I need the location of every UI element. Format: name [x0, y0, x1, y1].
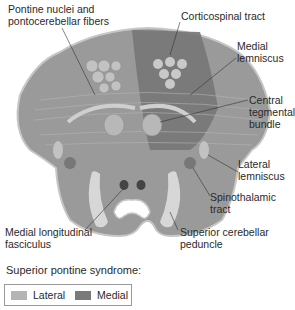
label-pontine-nuclei: Pontine nuclei and pontocerebellar fiber… [8, 3, 109, 27]
medial-swatch [75, 291, 91, 300]
legend: Lateral Medial [4, 284, 132, 306]
spinothalamic-right [184, 157, 196, 169]
mlf-left [120, 180, 129, 190]
spinothalamic-left [64, 157, 76, 169]
pons-cross-section [0, 0, 295, 260]
central-tegmental-left [104, 114, 124, 136]
mlf-right [137, 180, 146, 190]
lateral-lemniscus-left [53, 141, 63, 159]
legend-item-lateral: Lateral [11, 289, 65, 301]
legend-label-lateral: Lateral [33, 289, 65, 301]
label-spinothalamic-tract: Spinothalamic tract [210, 191, 295, 215]
label-corticospinal-tract: Corticospinal tract [181, 10, 265, 22]
label-mlf: Medial longitudinal fasciculus [5, 226, 92, 250]
legend-item-medial: Medial [75, 289, 128, 301]
label-central-tegmental-bundle: Central tegmental bundle [249, 94, 295, 130]
label-medial-lemniscus: Medial lemniscus [237, 40, 284, 64]
label-superior-cerebellar-peduncle: Superior cerebellar peduncle [180, 226, 269, 250]
legend-label-medial: Medial [97, 289, 128, 301]
central-tegmental-right [142, 114, 162, 136]
lateral-swatch [11, 291, 27, 300]
lateral-lemniscus-right [199, 141, 209, 159]
legend-title: Superior pontine syndrome: [6, 264, 141, 276]
label-lateral-lemniscus: Lateral lemniscus [238, 158, 285, 182]
